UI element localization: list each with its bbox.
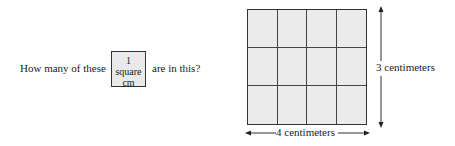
grid-cell <box>278 10 308 48</box>
grid-cell <box>248 48 278 86</box>
unit-square: 1 square cm <box>111 51 146 87</box>
unit-square-line2: cm <box>112 77 145 88</box>
rectangle-grid <box>247 9 367 125</box>
grid-cell <box>337 10 367 48</box>
height-label: 3 centimeters <box>376 61 435 73</box>
grid-cell <box>278 86 308 124</box>
grid-cell <box>337 86 367 124</box>
question-prefix: How many of these <box>20 62 106 74</box>
grid-cell <box>337 48 367 86</box>
grid-cell <box>248 10 278 48</box>
grid-cell <box>248 86 278 124</box>
width-label: 4 centimeters <box>276 126 335 138</box>
grid-cell <box>307 10 337 48</box>
grid-cell <box>307 86 337 124</box>
grid-cell <box>307 48 337 86</box>
unit-square-line1: 1 square <box>112 55 145 77</box>
grid-cell <box>278 48 308 86</box>
question-suffix: are in this? <box>152 62 200 74</box>
